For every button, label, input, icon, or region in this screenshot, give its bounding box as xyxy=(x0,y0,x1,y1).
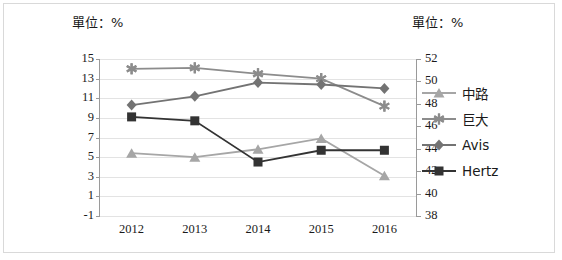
left-axis-unit-label: 單位：% xyxy=(72,12,123,31)
tick-mark xyxy=(417,171,421,172)
legend-item-Avis[interactable]: Avis xyxy=(422,132,542,158)
left-tick-label: 11 xyxy=(66,90,94,105)
data-point xyxy=(379,83,389,94)
legend-label: 中路 xyxy=(456,83,488,103)
legend-label: 巨大 xyxy=(456,109,488,129)
legend-label: Avis xyxy=(456,137,489,153)
tick-mark xyxy=(96,216,100,217)
x-tick-label: 2015 xyxy=(298,222,344,237)
left-tick-label: -1 xyxy=(66,208,94,223)
data-point xyxy=(317,146,326,155)
data-point xyxy=(254,158,263,167)
tick-mark xyxy=(417,194,421,195)
data-point xyxy=(379,171,390,181)
data-point xyxy=(434,114,444,125)
legend: 中路巨大AvisHertz xyxy=(422,80,542,184)
right-axis-unit-label: 單位：% xyxy=(412,12,463,31)
left-tick-label: 5 xyxy=(66,149,94,164)
series-line xyxy=(132,138,385,175)
legend-item-巨大[interactable]: 巨大 xyxy=(422,106,542,132)
data-point xyxy=(380,146,389,155)
right-tick-label: 52 xyxy=(425,51,438,66)
data-point xyxy=(190,116,199,125)
diamond-icon xyxy=(422,136,456,154)
square-icon xyxy=(422,162,456,180)
triangle-icon xyxy=(422,84,456,102)
plot-area xyxy=(100,59,416,216)
series-lines xyxy=(100,59,416,216)
tick-mark xyxy=(417,59,421,60)
gridline xyxy=(100,216,416,217)
right-tick-label: 40 xyxy=(425,186,438,201)
left-tick-label: 1 xyxy=(66,188,94,203)
legend-label: Hertz xyxy=(456,163,498,179)
legend-item-Hertz[interactable]: Hertz xyxy=(422,158,542,184)
left-tick-label: 15 xyxy=(66,51,94,66)
data-point xyxy=(434,88,445,98)
data-point xyxy=(434,140,444,151)
chart-frame: 單位：% 單位：% 15131197531-1 5250484644424038… xyxy=(3,3,555,253)
x-tick-label: 2016 xyxy=(361,222,407,237)
x-tick-label: 2012 xyxy=(109,222,155,237)
left-tick-label: 3 xyxy=(66,169,94,184)
tick-mark xyxy=(417,216,421,217)
left-tick-label: 7 xyxy=(66,130,94,145)
data-point xyxy=(127,100,137,111)
data-point xyxy=(380,101,390,112)
data-point xyxy=(127,112,136,121)
asterisk-icon xyxy=(422,110,456,128)
tick-mark xyxy=(417,81,421,82)
data-point xyxy=(435,167,444,176)
x-tick-label: 2013 xyxy=(172,222,218,237)
x-tick-label: 2014 xyxy=(235,222,281,237)
legend-item-中路[interactable]: 中路 xyxy=(422,80,542,106)
right-tick-label: 38 xyxy=(425,208,438,223)
data-point xyxy=(253,77,263,88)
tick-mark xyxy=(417,104,421,105)
tick-mark xyxy=(417,149,421,150)
left-tick-label: 13 xyxy=(66,71,94,86)
tick-mark xyxy=(417,126,421,127)
left-tick-label: 9 xyxy=(66,110,94,125)
data-point xyxy=(190,91,200,102)
